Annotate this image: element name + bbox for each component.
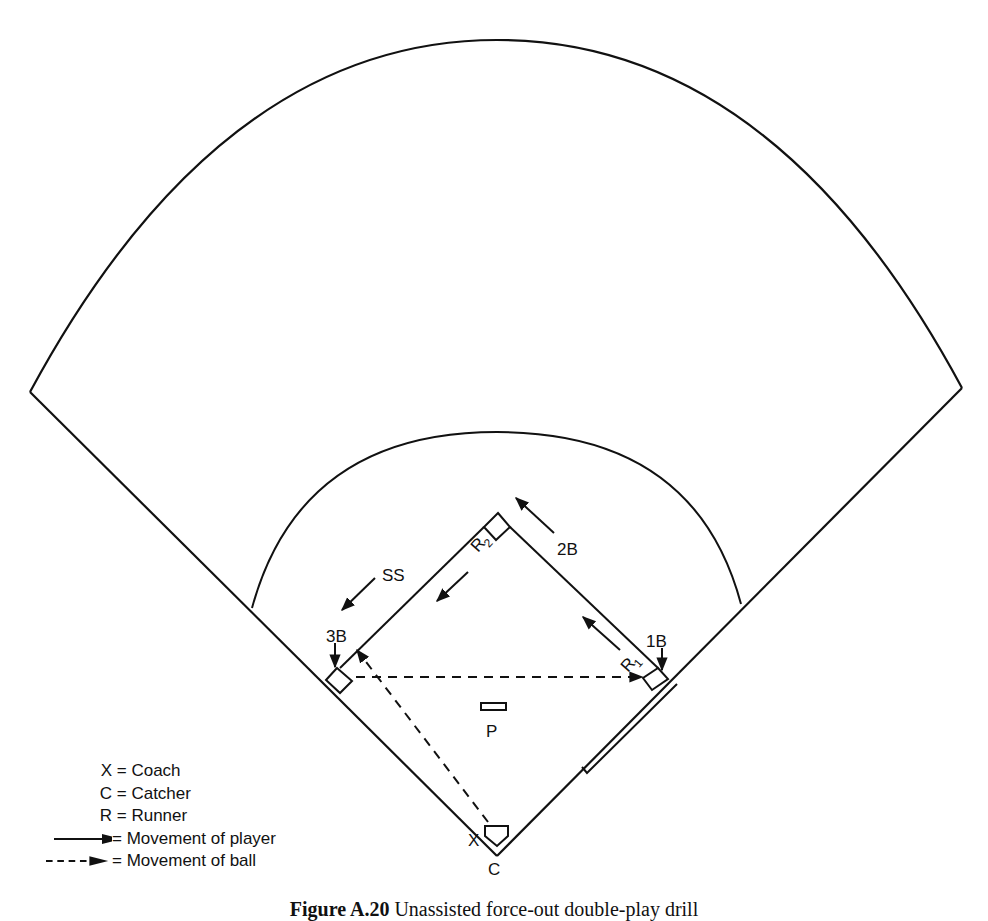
legend-sep: = [117, 805, 127, 828]
legend-item-runner: R = Runner [66, 805, 276, 828]
baseline-second-to-first [510, 527, 658, 668]
legend-sep: = [117, 783, 127, 806]
legend-symbol: R [66, 805, 112, 828]
right-foul-line [497, 388, 962, 856]
legend-meaning: Movement of player [127, 828, 276, 851]
dashed-arrow-icon [46, 855, 112, 867]
home-plate-icon [485, 826, 508, 846]
legend-sep: = [117, 760, 127, 783]
label-second-base: 2B [557, 540, 578, 559]
legend: X = Coach C = Catcher R = Runner = Movem… [66, 760, 276, 873]
legend-meaning: Runner [131, 805, 187, 828]
label-coach: X [468, 831, 479, 850]
second-base-icon [484, 513, 510, 540]
label-first-base: 1B [646, 632, 667, 651]
legend-meaning: Catcher [131, 783, 191, 806]
running-lane [582, 684, 677, 773]
caption-text: Unassisted force-out double-play drill [394, 898, 698, 920]
runner-1-arrow [583, 617, 620, 650]
legend-sep: = [112, 828, 122, 851]
label-shortstop: SS [382, 566, 405, 585]
caption-label: Figure A.20 [290, 898, 390, 920]
legend-meaning: Coach [131, 760, 180, 783]
runner-1-label: R 1 [617, 650, 646, 679]
legend-symbol: C [66, 783, 112, 806]
shortstop-arrow [342, 578, 375, 610]
pitcher-rubber-icon [481, 703, 506, 710]
legend-item-catcher: C = Catcher [66, 783, 276, 806]
legend-item-player-movement: = Movement of player [66, 828, 276, 851]
legend-item-ball-movement: = Movement of ball [66, 850, 276, 873]
label-catcher: C [488, 860, 500, 879]
label-third-base: 3B [326, 627, 347, 646]
runner-2-arrow [437, 572, 468, 601]
baseline-third-to-second [340, 527, 484, 668]
label-pitcher: P [486, 722, 497, 741]
legend-sep: = [112, 850, 122, 873]
outfield-fence [30, 40, 962, 392]
figure-caption: Figure A.20 Unassisted force-out double-… [0, 898, 988, 921]
legend-symbol: X [66, 760, 112, 783]
legend-item-coach: X = Coach [66, 760, 276, 783]
legend-meaning: Movement of ball [127, 850, 256, 873]
second-baseman-arrow [516, 498, 554, 533]
solid-arrow-icon [42, 833, 112, 845]
